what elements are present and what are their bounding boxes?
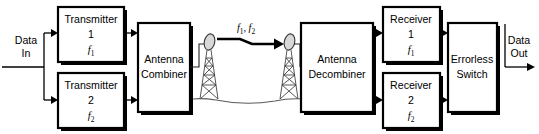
data-in-label-line1: Data [15,34,37,46]
arrowhead-propagation [274,39,284,50]
antenna-decombiner-block: Antenna Decombiner [301,23,376,115]
receiver-2-block: Receiver 2 f2 [383,73,443,131]
errorless-switch-block: Errorless Switch [448,23,500,115]
receive-tower-leg-left [280,50,287,99]
errorless-switch-label-line2: Switch [456,68,487,80]
data-in-label-line2: In [22,47,31,59]
antenna-combiner-label-line2: Combiner [141,68,187,80]
propagation-arrow-line [217,39,275,44]
data-out-label-line2: Out [510,47,527,59]
receive-dish-icon [283,33,297,51]
antenna-decombiner-label-line1: Antenna [317,53,357,65]
transmitter-2-label: Transmitter [64,79,118,91]
transmit-tower-x-3 [202,75,216,85]
receiver-1-block: Receiver 1 f1 [383,7,443,65]
receiver-1-label: Receiver [390,13,432,25]
path-frequency-label: f1, f2 [237,22,255,36]
ground-terrain [193,99,305,104]
receiver-2-label: Receiver [390,79,432,91]
arrowhead-data-out [527,63,535,71]
transmitter-2-block: Transmitter 2 f2 [58,73,127,131]
data-out-label-line1: Data [508,34,530,46]
data-out-group: Data Out [505,24,535,71]
transmit-tower-x-4 [200,85,218,99]
receiver-1-index: 1 [408,28,414,40]
feedline-receive-vertical [294,44,300,67]
diagram-canvas: Data In Transmitter 1 f1 Transmitter 2 [0,0,539,134]
transmit-tower-leg-left [200,50,207,99]
transmitter-2-index: 2 [88,94,94,106]
transmitter-1-block: Transmitter 1 f1 [58,7,127,65]
data-in-group: Data In [2,29,58,104]
receive-tower-x-1 [285,58,293,66]
transmit-dish-icon [203,33,217,51]
receive-tower-x-4 [280,85,298,99]
block-diagram: Data In Transmitter 1 f1 Transmitter 2 [0,0,539,134]
transmitter-1-label: Transmitter [64,13,118,25]
receive-tower-x-3 [282,75,296,85]
antenna-combiner-label-line1: Antenna [144,53,184,65]
tower-to-decombiner-feed [294,44,300,67]
transmitter-1-index: 1 [88,28,94,40]
receiver-2-index: 2 [408,94,414,106]
propagation-path: f1, f2 [217,22,284,50]
receive-tower [280,33,298,99]
transmit-tower [200,33,218,99]
transmit-tower-x-1 [205,58,213,66]
antenna-combiner-block: Antenna Combiner [138,23,193,115]
ground-line [193,99,305,104]
errorless-switch-label-line1: Errorless [451,53,493,65]
antenna-decombiner-label-line2: Decombiner [308,68,366,80]
